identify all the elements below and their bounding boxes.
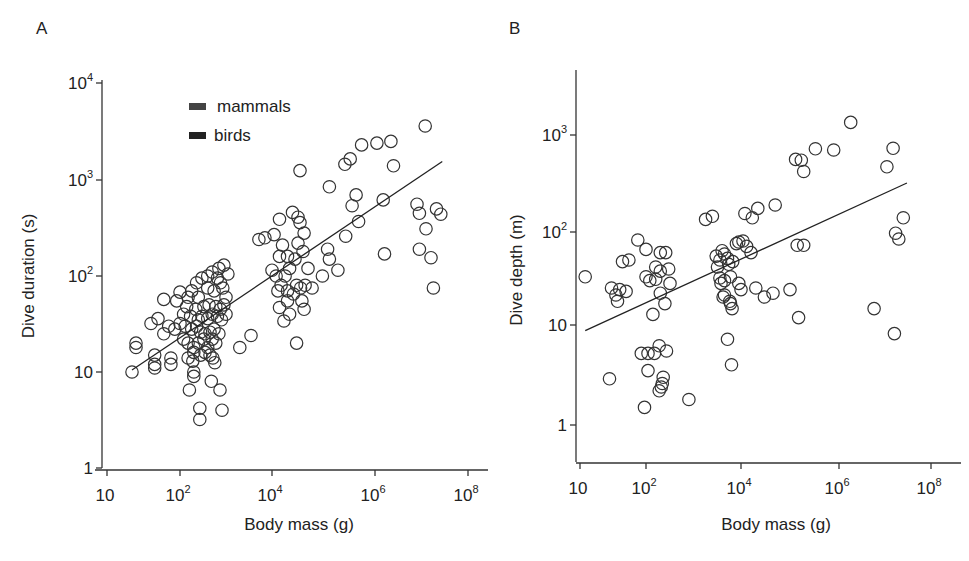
- x-tick-label: 10: [96, 486, 115, 505]
- x-tick-label: 106: [360, 483, 385, 505]
- data-point: [216, 404, 228, 416]
- panel-a-regression-line: [132, 162, 442, 370]
- y-tick-label: 1: [558, 416, 567, 435]
- x-tick-label: 102: [631, 476, 656, 498]
- data-point: [653, 385, 665, 397]
- legend: mammals birds: [189, 97, 291, 145]
- panel-a-x-ticks: 10102104106108: [96, 470, 479, 505]
- data-point: [430, 203, 442, 215]
- data-point: [316, 270, 328, 282]
- legend-label-birds: birds: [214, 126, 251, 145]
- panel-b-x-axis-title: Body mass (g): [721, 515, 831, 534]
- data-point: [721, 333, 733, 345]
- data-point: [299, 279, 311, 291]
- data-point: [663, 263, 675, 275]
- data-point: [355, 139, 367, 151]
- panel-b-y-axis-title: Dive depth (m): [507, 214, 526, 325]
- panel-a-y-ticks: 110102103104: [68, 71, 102, 478]
- data-point: [339, 158, 351, 170]
- data-point: [660, 246, 672, 258]
- panel-b-data-points: [579, 116, 910, 413]
- data-point: [387, 160, 399, 172]
- data-point: [296, 295, 308, 307]
- x-tick-label: 108: [453, 483, 478, 505]
- data-point: [214, 384, 226, 396]
- data-point: [746, 212, 758, 224]
- data-point: [659, 297, 671, 309]
- legend-swatch-birds: [189, 132, 206, 139]
- x-tick-label: 108: [916, 476, 941, 498]
- data-point: [302, 262, 314, 274]
- y-tick-label: 103: [542, 123, 567, 145]
- data-point: [435, 208, 447, 220]
- data-point: [298, 303, 310, 315]
- y-tick-label: 103: [68, 168, 93, 190]
- panel-a: A 110102103104 10102104106108 Dive durat…: [19, 19, 488, 534]
- x-tick-label: 10: [569, 479, 588, 498]
- data-point: [425, 252, 437, 264]
- data-point: [323, 181, 335, 193]
- data-point: [346, 200, 358, 212]
- data-point: [784, 283, 796, 295]
- y-tick-label: 10: [74, 363, 93, 382]
- panel-a-y-axis-title: Dive duration (s): [19, 214, 38, 339]
- legend-label-mammals: mammals: [217, 97, 291, 116]
- data-point: [792, 311, 804, 323]
- panel-b: B 110102103 10102104106108 Dive depth (m…: [507, 19, 961, 534]
- data-point: [276, 239, 288, 251]
- data-point: [194, 413, 206, 425]
- y-tick-label: 1: [84, 459, 93, 478]
- data-point: [752, 202, 764, 214]
- data-point: [888, 327, 900, 339]
- data-point: [411, 198, 423, 210]
- data-point: [340, 230, 352, 242]
- panel-a-label: A: [36, 19, 48, 38]
- panel-b-x-ticks: 10102104106108: [569, 463, 942, 498]
- legend-swatch-mammals: [189, 103, 206, 110]
- data-point: [385, 135, 397, 147]
- data-point: [664, 277, 676, 289]
- data-point: [152, 312, 164, 324]
- data-point: [290, 337, 302, 349]
- data-point: [344, 153, 356, 165]
- data-point: [413, 207, 425, 219]
- data-point: [828, 144, 840, 156]
- data-point: [798, 165, 810, 177]
- panel-b-label: B: [509, 19, 520, 38]
- data-point: [234, 341, 246, 353]
- x-tick-label: 104: [257, 483, 282, 505]
- data-point: [298, 227, 310, 239]
- data-point: [332, 264, 344, 276]
- data-point: [273, 213, 285, 225]
- panel-b-y-ticks: 110102103: [542, 123, 576, 435]
- data-point: [809, 143, 821, 155]
- data-point: [897, 212, 909, 224]
- data-point: [654, 246, 666, 258]
- data-point: [371, 137, 383, 149]
- data-point: [281, 250, 293, 262]
- y-tick-label: 104: [68, 71, 93, 93]
- y-tick-label: 102: [542, 220, 567, 242]
- data-point: [419, 120, 431, 132]
- data-point: [638, 401, 650, 413]
- data-point: [427, 282, 439, 294]
- data-point: [868, 302, 880, 314]
- data-point: [413, 243, 425, 255]
- data-point: [306, 282, 318, 294]
- data-point: [769, 199, 781, 211]
- data-point: [845, 116, 857, 128]
- data-point: [887, 142, 899, 154]
- data-point: [683, 393, 695, 405]
- data-point: [640, 243, 652, 255]
- data-point: [706, 210, 718, 222]
- data-point: [739, 207, 751, 219]
- data-point: [245, 329, 257, 341]
- y-tick-label: 10: [548, 316, 567, 335]
- panel-a-x-axis-title: Body mass (g): [244, 515, 354, 534]
- x-tick-label: 102: [165, 483, 190, 505]
- data-point: [725, 359, 737, 371]
- data-point: [647, 308, 659, 320]
- data-point: [183, 384, 195, 396]
- x-tick-label: 104: [726, 476, 751, 498]
- data-point: [605, 282, 617, 294]
